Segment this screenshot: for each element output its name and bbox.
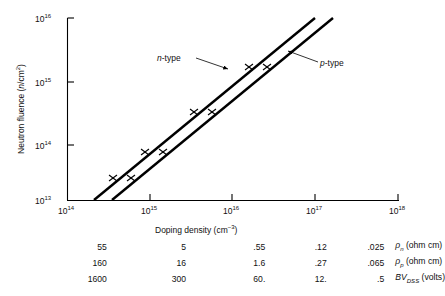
- leader-p-type: [288, 51, 318, 62]
- marker-n-type-3: [190, 109, 198, 115]
- marker-p-type-3: [208, 109, 216, 115]
- cell-rho-p-1e15: 16: [107, 255, 186, 271]
- cell-rho-n-1e18: .025: [327, 239, 385, 255]
- table-row: 55 5 .55 .12 .025 ρn (ohm cm): [0, 239, 445, 255]
- cell-bvdss-1e18: .5: [327, 271, 385, 287]
- axis-group: [67, 18, 399, 201]
- marker-n-type-1: [109, 175, 117, 181]
- table-row: 1600 300 60. 12. .5 BVDSS (volts): [0, 271, 445, 287]
- table-row-spacer: [0, 239, 30, 255]
- marker-n-type-4: [245, 64, 253, 70]
- x-tick-label-1e16: 1016: [223, 205, 240, 216]
- curve-label-n-type: n-type: [157, 53, 181, 63]
- x-tick-label-1e15: 1015: [141, 205, 158, 216]
- row-label-bvdss: BVDSS (volts): [384, 271, 445, 287]
- y-axis-tick-labels: 1016 1015 1014 1013: [35, 13, 52, 206]
- curve-data-markers: [109, 64, 271, 181]
- curve-label-p-type: p-type: [319, 58, 344, 68]
- leader-n-type: [196, 58, 228, 69]
- table-row-spacer: [0, 255, 30, 271]
- y-tick-label-1e14: 1014: [35, 140, 52, 151]
- x-axis-ticks: [150, 194, 398, 201]
- cell-rho-p-1e17: .27: [265, 255, 326, 271]
- marker-p-type-1: [127, 175, 135, 181]
- cell-rho-n-1e15: 5: [107, 239, 186, 255]
- y-axis-ticks: [68, 18, 75, 145]
- cell-rho-n-1e16: .55: [186, 239, 265, 255]
- data-curves: [94, 18, 333, 200]
- marker-p-type-2: [159, 149, 167, 155]
- cell-rho-p-1e14: 160: [30, 255, 107, 271]
- x-tick-label-1e18: 1018: [389, 205, 406, 216]
- cell-bvdss-1e15: 300: [107, 271, 186, 287]
- cell-rho-n-1e14: 55: [30, 239, 107, 255]
- parameter-table-grid: 55 5 .55 .12 .025 ρn (ohm cm) 160 16 1.6…: [0, 239, 445, 287]
- marker-p-type-4: [263, 64, 271, 70]
- row-label-rho-p: ρp (ohm cm): [384, 255, 445, 271]
- cell-rho-p-1e18: .065: [327, 255, 385, 271]
- cell-bvdss-1e17: 12.: [265, 271, 326, 287]
- cell-bvdss-1e14: 1600: [30, 271, 107, 287]
- cell-rho-p-1e16: 1.6: [186, 255, 265, 271]
- y-tick-label-1e16: 1016: [35, 13, 52, 24]
- y-tick-label-1e13: 1013: [35, 195, 52, 206]
- x-axis-title: Doping density (cm−3): [155, 224, 238, 235]
- table-row: 160 16 1.6 .27 .065 ρp (ohm cm): [0, 255, 445, 271]
- cell-bvdss-1e16: 60.: [186, 271, 265, 287]
- curve-p-type: [112, 18, 333, 200]
- y-tick-label-1e15: 1015: [35, 77, 52, 88]
- x-axis-tick-labels: 1014 1015 1016 1017 1018: [58, 205, 406, 216]
- table-row-spacer: [0, 271, 30, 287]
- cell-rho-n-1e17: .12: [265, 239, 326, 255]
- parameter-table: 55 5 .55 .12 .025 ρn (ohm cm) 160 16 1.6…: [0, 239, 445, 287]
- row-label-rho-n: ρn (ohm cm): [384, 239, 445, 255]
- y-axis-title: Neutron fluence (n/cm2): [15, 64, 26, 154]
- curve-n-type: [94, 18, 315, 200]
- x-tick-label-1e14: 1014: [58, 205, 75, 216]
- marker-n-type-2: [141, 149, 149, 155]
- x-tick-label-1e17: 1017: [306, 205, 323, 216]
